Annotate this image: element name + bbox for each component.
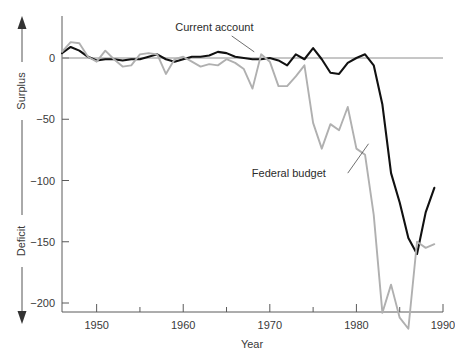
deficit-label: Deficit <box>15 226 27 257</box>
y-tick-label-4: −200 <box>30 297 55 309</box>
y-tick-label-1: −50 <box>36 113 55 125</box>
x-tick-label-2: 1970 <box>258 319 282 331</box>
line-chart: Surplus Deficit 0−50−100−150−200 1950196… <box>0 0 455 355</box>
x-tick-label-4: 1990 <box>431 319 455 331</box>
y-tick-label-2: −100 <box>30 175 55 187</box>
chart-container: Surplus Deficit 0−50−100−150−200 1950196… <box>0 0 455 355</box>
y-tick-label-0: 0 <box>49 52 55 64</box>
x-tick-label-0: 1950 <box>84 319 108 331</box>
x-tick-label-3: 1980 <box>344 319 368 331</box>
x-axis-title: Year <box>241 338 264 350</box>
y-tick-label-3: −150 <box>30 236 55 248</box>
surplus-label: Surplus <box>15 72 27 110</box>
annotation-current-account: Current account <box>175 21 253 33</box>
annotation-federal-budget: Federal budget <box>252 167 326 179</box>
x-tick-label-1: 1960 <box>171 319 195 331</box>
